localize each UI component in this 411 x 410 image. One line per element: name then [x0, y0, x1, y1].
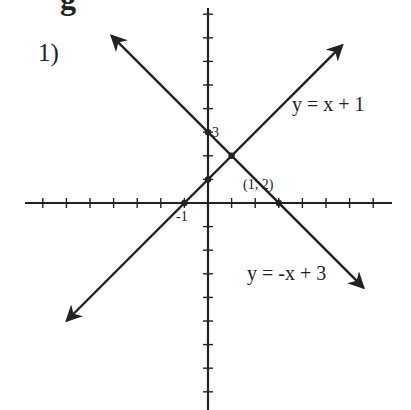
point-marker [276, 200, 282, 206]
problem-number: 1) [38, 40, 59, 65]
point-marker [181, 200, 187, 206]
equation-label-2: y = -x + 3 [247, 263, 326, 283]
point-marker [205, 129, 211, 135]
point-marker [205, 176, 211, 182]
intersection-label: (1, 2) [243, 178, 273, 192]
point-marker [228, 153, 234, 159]
plotted-points [181, 129, 282, 206]
equation-label-1: y = x + 1 [292, 94, 365, 114]
line-series-2 [111, 35, 364, 288]
x-intercept-label: -1 [176, 210, 188, 224]
coordinate-graph [0, 0, 411, 410]
y-intercept-label: 3 [212, 126, 219, 140]
cropped-heading-glyph: g [60, 0, 76, 14]
